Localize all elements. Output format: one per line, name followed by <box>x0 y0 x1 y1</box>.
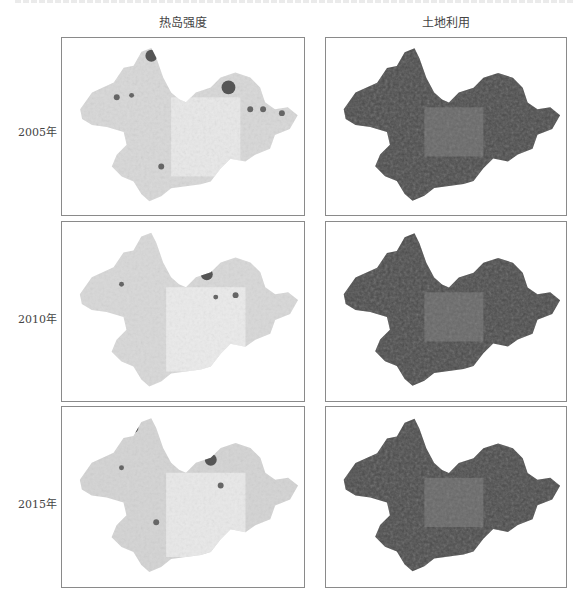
row-label-2015: 2015年 <box>18 495 57 511</box>
cropped-text-fragment <box>15 0 575 3</box>
heat-map-graphic <box>62 222 304 401</box>
column-title-heat-island: 热岛强度 <box>133 13 233 30</box>
landuse-map-graphic <box>326 222 566 401</box>
map-heat-2015 <box>61 406 305 588</box>
map-heat-2005 <box>61 37 305 216</box>
map-heat-2010 <box>61 221 305 402</box>
map-landuse-2005 <box>325 37 567 216</box>
map-landuse-2010 <box>325 221 567 402</box>
heat-map-graphic <box>62 407 304 587</box>
map-landuse-2015 <box>325 406 567 588</box>
heat-map-graphic <box>62 38 304 215</box>
landuse-map-graphic <box>326 38 566 215</box>
row-label-2005: 2005年 <box>18 123 57 139</box>
column-title-land-use: 土地利用 <box>396 13 496 30</box>
row-label-2010: 2010年 <box>18 310 57 326</box>
landuse-map-graphic <box>326 407 566 587</box>
